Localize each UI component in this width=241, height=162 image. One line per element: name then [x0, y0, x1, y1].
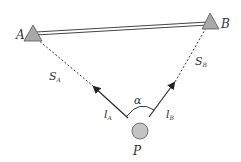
label-sb: SB: [195, 55, 208, 68]
label-b: B: [220, 17, 230, 31]
label-a: A: [15, 28, 25, 42]
label-alpha: α: [134, 94, 142, 107]
label-p: P: [132, 144, 142, 158]
label-la: lA: [104, 108, 113, 121]
baseline-ab: [36, 22, 208, 35]
point-p-circle-icon: [132, 123, 148, 139]
angle-alpha-arc: [127, 106, 154, 116]
point-a-triangle-icon: [24, 25, 42, 41]
label-sa: SA: [49, 70, 62, 83]
point-b-triangle-icon: [202, 13, 219, 29]
diagram-canvas: A B P α SA SB lA lB: [0, 0, 241, 162]
label-lb: lB: [166, 108, 175, 121]
vector-lb-arrow: [149, 83, 174, 117]
distance-sa-line: [37, 39, 93, 86]
